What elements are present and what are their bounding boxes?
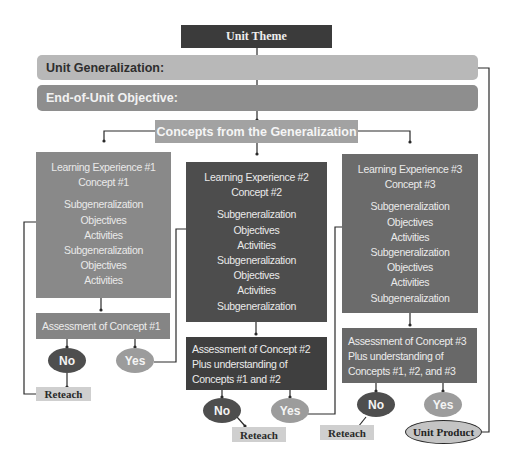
learning-experience-1-box: Learning Experience #1 Concept #1 Subgen… — [36, 152, 171, 298]
learning-experience-2-box: Learning Experience #2 Concept #2 Subgen… — [186, 162, 327, 322]
yes-decision-2: Yes — [271, 398, 309, 423]
assessment-1-box: Assessment of Concept #1 — [36, 313, 170, 339]
learning-experience-3-box: Learning Experience #3 Concept #3 Subgen… — [342, 154, 478, 313]
le3-item: Subgeneralization — [342, 199, 478, 214]
no-decision-3: No — [357, 392, 395, 417]
yes-decision-3: Yes — [424, 392, 462, 417]
assessment-3-line: Assessment of Concept #3 — [348, 334, 471, 349]
le1-item: Subgeneralization — [36, 197, 171, 212]
le3-item: Objectives — [342, 260, 478, 275]
le2-item: Activities — [186, 238, 327, 253]
unit-generalization-bar: Unit Generalization: — [37, 55, 478, 80]
le3-item: Activities — [342, 275, 478, 290]
assessment-3-line: Concepts #1, #2, and #3 — [348, 364, 471, 379]
le2-title: Learning Experience #2 — [186, 170, 327, 185]
le1-item: Activities — [36, 273, 171, 288]
unit-theme-box: Unit Theme — [181, 25, 332, 48]
reteach-box-3: Reteach — [320, 425, 374, 440]
le2-item: Subgeneralization — [186, 207, 327, 222]
concepts-from-generalization-box: Concepts from the Generalization — [155, 120, 358, 143]
le3-item: Activities — [342, 230, 478, 245]
le2-concept: Concept #2 — [186, 185, 327, 200]
le2-item: Subgeneralization — [186, 253, 327, 268]
le1-title: Learning Experience #1 — [36, 160, 171, 175]
le1-item: Objectives — [36, 258, 171, 273]
le1-item: Activities — [36, 228, 171, 243]
unit-product-oval: Unit Product — [405, 420, 482, 444]
assessment-2-box: Assessment of Concept #2 Plus understand… — [186, 337, 327, 390]
le3-item: Subgeneralization — [342, 291, 478, 306]
assessment-3-box: Assessment of Concept #3 Plus understand… — [342, 328, 477, 383]
end-of-unit-objective-bar: End-of-Unit Objective: — [37, 85, 478, 111]
assessment-2-line: Plus understanding of — [192, 357, 321, 372]
le3-concept: Concept #3 — [342, 177, 478, 192]
le3-item: Subgeneralization — [342, 245, 478, 260]
le1-concept: Concept #1 — [36, 175, 171, 190]
reteach-box-2: Reteach — [232, 427, 286, 442]
no-decision-2: No — [203, 398, 241, 423]
le3-item: Objectives — [342, 215, 478, 230]
no-decision-1: No — [48, 348, 86, 373]
reteach-box-1: Reteach — [36, 387, 91, 401]
le2-item: Objectives — [186, 268, 327, 283]
assessment-3-line: Plus understanding of — [348, 349, 471, 364]
le1-item: Subgeneralization — [36, 243, 171, 258]
le2-item: Subgeneralization — [186, 299, 327, 314]
le3-title: Learning Experience #3 — [342, 162, 478, 177]
le2-item: Objectives — [186, 223, 327, 238]
assessment-2-line: Assessment of Concept #2 — [192, 342, 321, 357]
yes-decision-1: Yes — [116, 348, 154, 373]
le2-item: Activities — [186, 283, 327, 298]
le1-item: Objectives — [36, 213, 171, 228]
assessment-2-line: Concepts #1 and #2 — [192, 372, 321, 387]
assessment-1-line: Assessment of Concept #1 — [42, 319, 164, 334]
